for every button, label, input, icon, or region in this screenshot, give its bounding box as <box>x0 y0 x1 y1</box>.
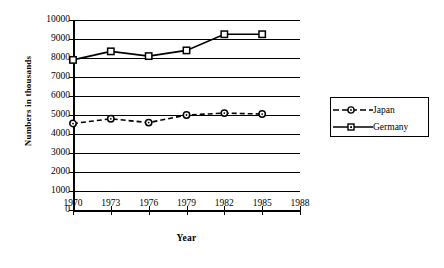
y-axis-tick-label: 3000 <box>28 148 70 158</box>
square-marker <box>259 31 265 37</box>
x-axis-tick-label: 1982 <box>204 198 244 208</box>
circle-marker-center <box>223 112 225 114</box>
line-chart: Numbers in thousands 1000090008000700060… <box>0 0 444 268</box>
series-line <box>73 113 262 123</box>
solid-line-square-marker-icon <box>331 120 375 134</box>
y-axis-tick-label: 4000 <box>28 129 70 139</box>
circle-marker-center <box>261 113 263 115</box>
y-axis-tick-label: 9000 <box>28 34 70 44</box>
plot-area <box>73 20 300 210</box>
series-japan <box>70 110 266 127</box>
square-marker <box>145 53 151 59</box>
x-axis-tick-label: 1979 <box>167 198 207 208</box>
legend-label-japan: Japan <box>373 105 395 115</box>
x-axis-tick-label: 1985 <box>242 198 282 208</box>
legend-item-japan: Japan <box>331 102 430 118</box>
series-layer <box>73 20 300 211</box>
y-axis-tick-labels: 1000090008000700060005000400030002000100… <box>26 0 70 268</box>
square-marker <box>108 48 114 54</box>
x-axis-tick-label: 1988 <box>280 198 320 208</box>
y-axis-tick-label: 1000 <box>28 186 70 196</box>
x-axis-title: Year <box>73 233 300 243</box>
series-line <box>73 34 262 60</box>
square-marker <box>70 57 76 63</box>
y-axis-tick-label: 8000 <box>28 53 70 63</box>
y-axis-tick-label: 10000 <box>28 15 70 25</box>
x-axis-tick-label: 1970 <box>53 198 93 208</box>
legend-label-germany: Germany <box>373 122 408 132</box>
legend-item-germany: Germany <box>331 119 430 135</box>
y-axis-tick-label: 2000 <box>28 167 70 177</box>
x-axis-tick-label: 1976 <box>129 198 169 208</box>
square-marker <box>221 31 227 37</box>
y-axis-tick-label: 7000 <box>28 72 70 82</box>
legend: Japan Germany <box>330 97 429 137</box>
y-axis-tick-label: 6000 <box>28 91 70 101</box>
circle-marker-center <box>186 114 188 116</box>
circle-marker-center <box>148 122 150 124</box>
series-germany <box>70 31 266 63</box>
y-axis-tick-label: 5000 <box>28 110 70 120</box>
x-axis-tick-label: 1973 <box>91 198 131 208</box>
circle-marker-center <box>72 123 74 125</box>
circle-marker-center <box>110 118 112 120</box>
square-marker <box>183 47 189 53</box>
dashed-line-circle-marker-icon <box>331 103 375 117</box>
